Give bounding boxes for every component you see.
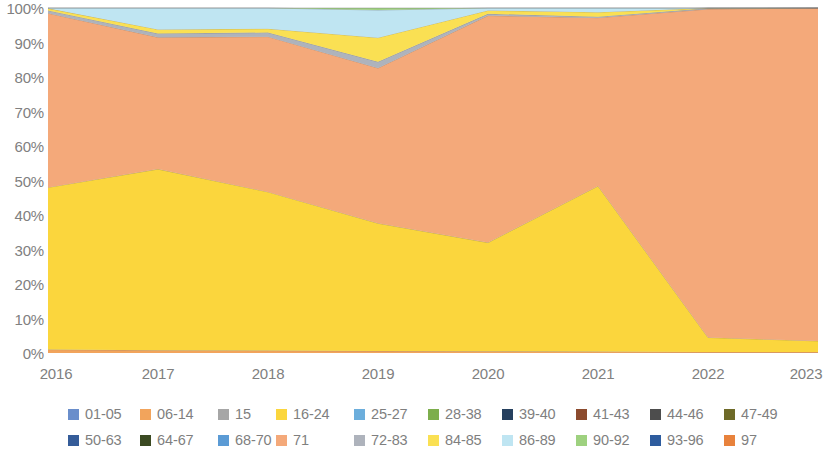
legend-item[interactable]: 01-05 xyxy=(68,404,122,424)
legend-swatch-icon xyxy=(68,409,79,420)
legend-item[interactable]: 90-92 xyxy=(576,430,630,450)
legend-item[interactable]: 41-43 xyxy=(576,404,630,424)
legend-swatch-icon xyxy=(140,409,151,420)
legend-swatch-icon xyxy=(218,435,229,446)
legend-swatch-icon xyxy=(68,435,79,446)
x-axis-tick-label: 2016 xyxy=(40,366,73,381)
legend-item[interactable]: 25-27 xyxy=(354,404,408,424)
legend-swatch-icon xyxy=(354,409,365,420)
legend-item[interactable]: 47-49 xyxy=(724,404,778,424)
legend-item-label: 93-96 xyxy=(667,433,704,448)
legend-swatch-icon xyxy=(140,435,151,446)
legend-item-label: 41-43 xyxy=(593,407,630,422)
legend-item[interactable]: 68-70 xyxy=(218,430,272,450)
x-axis-tick-label: 2018 xyxy=(252,366,285,381)
legend-item-label: 28-38 xyxy=(445,407,482,422)
legend-swatch-icon xyxy=(428,409,439,420)
y-axis-tick-label: 10% xyxy=(2,312,44,327)
legend-item[interactable]: 86-89 xyxy=(502,430,556,450)
x-axis-tick-label: 2017 xyxy=(142,366,175,381)
legend-item[interactable]: 84-85 xyxy=(428,430,482,450)
legend-swatch-icon xyxy=(276,409,287,420)
x-axis-tick-label: 2020 xyxy=(472,366,505,381)
legend-item[interactable]: 28-38 xyxy=(428,404,482,424)
x-axis-tick-label: 2023 xyxy=(790,366,823,381)
legend-swatch-icon xyxy=(650,435,661,446)
x-axis-tick-label: 2019 xyxy=(362,366,395,381)
legend-item[interactable]: 97 xyxy=(724,430,757,450)
legend-item[interactable]: 71 xyxy=(276,430,309,450)
y-axis-tick-label: 80% xyxy=(2,70,44,85)
x-axis-tick-label: 2021 xyxy=(582,366,615,381)
legend-item[interactable]: 39-40 xyxy=(502,404,556,424)
legend-swatch-icon xyxy=(276,435,287,446)
legend-item[interactable]: 15 xyxy=(218,404,251,424)
legend-item-label: 25-27 xyxy=(371,407,408,422)
y-axis-tick-label: 70% xyxy=(2,105,44,120)
legend-swatch-icon xyxy=(724,409,735,420)
legend-item[interactable]: 50-63 xyxy=(68,430,122,450)
y-axis-tick-label: 100% xyxy=(2,1,44,16)
chart-legend: 01-0506-141516-2425-2728-3839-4041-4344-… xyxy=(0,398,826,458)
y-axis: 100%90%80%70%60%50%40%30%20%10%0% xyxy=(0,0,44,360)
stacked-area-chart: 100%90%80%70%60%50%40%30%20%10%0% 201620… xyxy=(0,0,826,460)
legend-item-label: 84-85 xyxy=(445,433,482,448)
y-axis-tick-label: 20% xyxy=(2,277,44,292)
plot-area xyxy=(0,0,826,360)
y-axis-tick-label: 90% xyxy=(2,36,44,51)
legend-item-label: 47-49 xyxy=(741,407,778,422)
legend-swatch-icon xyxy=(576,435,587,446)
legend-swatch-icon xyxy=(502,409,513,420)
legend-swatch-icon xyxy=(576,409,587,420)
legend-item-label: 90-92 xyxy=(593,433,630,448)
legend-swatch-icon xyxy=(724,435,735,446)
legend-swatch-icon xyxy=(218,409,229,420)
legend-item-label: 97 xyxy=(741,433,757,448)
legend-swatch-icon xyxy=(502,435,513,446)
legend-swatch-icon xyxy=(354,435,365,446)
y-axis-tick-label: 40% xyxy=(2,208,44,223)
y-axis-tick-label: 60% xyxy=(2,139,44,154)
y-axis-tick-label: 30% xyxy=(2,243,44,258)
legend-item[interactable]: 16-24 xyxy=(276,404,330,424)
legend-item[interactable]: 64-67 xyxy=(140,430,194,450)
legend-item-label: 86-89 xyxy=(519,433,556,448)
legend-swatch-icon xyxy=(650,409,661,420)
x-axis: 20162017201820192020202120222023 xyxy=(0,362,826,388)
legend-item-label: 71 xyxy=(293,433,309,448)
legend-row: 01-0506-141516-2425-2728-3839-4041-4344-… xyxy=(0,402,826,426)
legend-item-label: 06-14 xyxy=(157,407,194,422)
legend-item-label: 44-46 xyxy=(667,407,704,422)
legend-swatch-icon xyxy=(428,435,439,446)
legend-item-label: 64-67 xyxy=(157,433,194,448)
plot-svg xyxy=(0,0,826,360)
legend-item-label: 15 xyxy=(235,407,251,422)
legend-item[interactable]: 72-83 xyxy=(354,430,408,450)
legend-item-label: 50-63 xyxy=(85,433,122,448)
legend-item[interactable]: 93-96 xyxy=(650,430,704,450)
legend-item[interactable]: 44-46 xyxy=(650,404,704,424)
legend-item-label: 01-05 xyxy=(85,407,122,422)
legend-row: 50-6364-6768-707172-8384-8586-8990-9293-… xyxy=(0,428,826,452)
legend-item-label: 68-70 xyxy=(235,433,272,448)
legend-item[interactable]: 06-14 xyxy=(140,404,194,424)
x-axis-tick-label: 2022 xyxy=(692,366,725,381)
legend-item-label: 72-83 xyxy=(371,433,408,448)
y-axis-tick-label: 50% xyxy=(2,174,44,189)
legend-item-label: 39-40 xyxy=(519,407,556,422)
legend-item-label: 16-24 xyxy=(293,407,330,422)
y-axis-tick-label: 0% xyxy=(2,346,44,361)
